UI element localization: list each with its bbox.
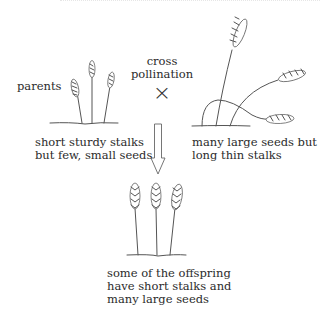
right-parent-caption-line2: long thin stalks [192, 149, 282, 162]
right-parent-plants [192, 17, 307, 126]
down-arrow-icon [151, 124, 165, 174]
ground-line-right [192, 126, 250, 127]
ground-line-left [50, 123, 118, 124]
cross-symbol-icon: × [142, 82, 182, 104]
offspring-caption-line3: many large seeds [107, 293, 209, 306]
offspring-plants [127, 183, 186, 256]
left-parent-caption-line2: but few, small seeds [35, 149, 152, 162]
parents-label: parents [17, 80, 61, 93]
